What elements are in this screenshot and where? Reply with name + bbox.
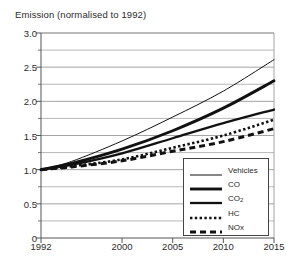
legend-line-sample-icon — [189, 166, 223, 176]
legend-item-label: CO2 — [228, 195, 243, 203]
x-tick-label: 1992 — [30, 241, 51, 252]
x-tick-label: 2015 — [263, 241, 284, 252]
legend-line-sample-icon — [189, 180, 223, 190]
legend-item-label: HC — [228, 210, 240, 218]
legend-item-label: CO — [228, 181, 240, 189]
legend-item-nox[interactable]: NOx — [189, 221, 265, 235]
legend-item-hc[interactable]: HC — [189, 207, 265, 221]
legend-item-label: NOx — [228, 224, 244, 232]
x-tick-label: 2010 — [213, 241, 234, 252]
legend-line-sample-icon — [189, 194, 223, 204]
legend-item-label: Vehicles — [228, 167, 258, 175]
x-tick-label: 2005 — [162, 241, 183, 252]
x-tick-label: 2000 — [111, 241, 132, 252]
emission-chart-figure: Emission (normalised to 1992) 00.51.01.5… — [0, 0, 291, 267]
legend-line-sample-icon — [189, 223, 223, 233]
legend-item-co2[interactable]: CO2 — [189, 192, 265, 206]
legend-item-vehicles[interactable]: Vehicles — [189, 164, 265, 178]
legend-item-co[interactable]: CO — [189, 178, 265, 192]
legend-line-sample-icon — [189, 209, 223, 219]
chart-legend: VehiclesCOCO2HCNOx — [183, 158, 269, 236]
